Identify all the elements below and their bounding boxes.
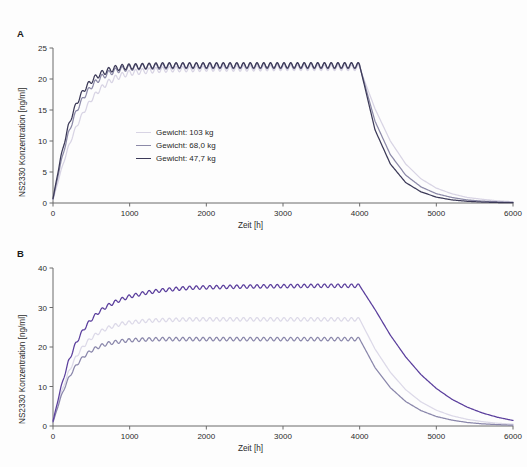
svg-text:2000: 2000 — [197, 432, 215, 441]
svg-text:4000: 4000 — [351, 432, 369, 441]
svg-text:5: 5 — [43, 168, 48, 177]
svg-text:20: 20 — [38, 343, 47, 352]
figure-container: A NS2330 Konzentration [ng/ml] Zeit [h] … — [0, 0, 527, 467]
svg-text:0: 0 — [43, 422, 48, 431]
svg-text:0: 0 — [51, 209, 56, 218]
panel-a-legend-item: Gewicht: 47,7 kg — [136, 152, 216, 165]
legend-label: Gewicht: 68,0 kg — [156, 139, 216, 152]
legend-line-swatch — [136, 158, 151, 159]
svg-text:20: 20 — [38, 75, 47, 84]
svg-text:6000: 6000 — [504, 432, 522, 441]
svg-text:3000: 3000 — [274, 209, 292, 218]
svg-text:4000: 4000 — [351, 209, 369, 218]
panel-b-plot: 0102030400100020003000400050006000 — [0, 234, 527, 467]
panel-a-legend-item: Gewicht: 68,0 kg — [136, 139, 216, 152]
panel-b: B NS2330 Konzentration [ng/ml] Zeit [h] … — [0, 234, 527, 467]
svg-text:6000: 6000 — [504, 209, 522, 218]
svg-text:10: 10 — [38, 137, 47, 146]
panel-a-plot: 05101520250100020003000400050006000 — [0, 0, 527, 234]
svg-text:10: 10 — [38, 383, 47, 392]
svg-text:5000: 5000 — [427, 209, 445, 218]
svg-text:0: 0 — [43, 199, 48, 208]
svg-text:0: 0 — [51, 432, 56, 441]
panel-a-legend-item: Gewicht: 103 kg — [136, 126, 216, 139]
svg-text:5000: 5000 — [427, 432, 445, 441]
svg-text:2000: 2000 — [197, 209, 215, 218]
panel-a-legend: Gewicht: 103 kgGewicht: 68,0 kgGewicht: … — [136, 126, 216, 165]
svg-text:30: 30 — [38, 304, 47, 313]
panel-a: A NS2330 Konzentration [ng/ml] Zeit [h] … — [0, 0, 527, 234]
svg-text:25: 25 — [38, 44, 47, 53]
legend-label: Gewicht: 47,7 kg — [156, 152, 216, 165]
legend-line-swatch — [136, 145, 151, 146]
svg-text:15: 15 — [38, 106, 47, 115]
svg-text:1000: 1000 — [121, 209, 139, 218]
svg-text:3000: 3000 — [274, 432, 292, 441]
legend-label: Gewicht: 103 kg — [156, 126, 213, 139]
svg-text:1000: 1000 — [121, 432, 139, 441]
svg-text:40: 40 — [38, 264, 47, 273]
legend-line-swatch — [136, 132, 151, 133]
